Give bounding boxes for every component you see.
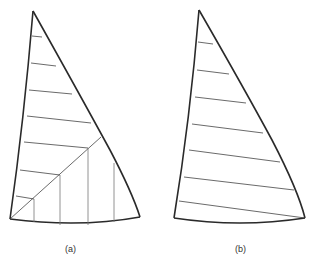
panel-b-seam-3 [195,97,246,103]
panel-a-seam-2 [31,63,56,66]
panel-b-seam-7 [179,201,305,218]
panel-b-seam-6 [184,177,294,190]
panel-a-leech [33,11,140,217]
panel-a-seam-3 [29,90,72,94]
panel-b-sail [174,10,305,223]
panel-a-seam-6 [20,170,60,175]
panel-b-foot [174,218,305,223]
sail-diagram-figure [0,0,315,265]
panel-b-leech [199,10,305,218]
panel-b-caption: (b) [235,244,246,254]
panel-a-sail [10,11,140,225]
panel-a-caption: (a) [65,244,76,254]
panel-b-seam-2 [197,70,229,74]
panel-a-luff [10,11,33,219]
panel-b-luff [174,10,199,218]
panel-b-seam-4 [192,124,263,133]
panel-a-foot [10,217,140,223]
panel-b-seam-1 [198,42,213,44]
panel-a-diagonal [10,137,101,219]
panel-a-seam-5 [24,142,88,148]
panel-a-seam-4 [27,116,91,123]
panel-a-seam-1 [32,36,42,37]
panel-a-seam-7 [16,196,34,199]
panel-b-seam-5 [189,150,280,162]
